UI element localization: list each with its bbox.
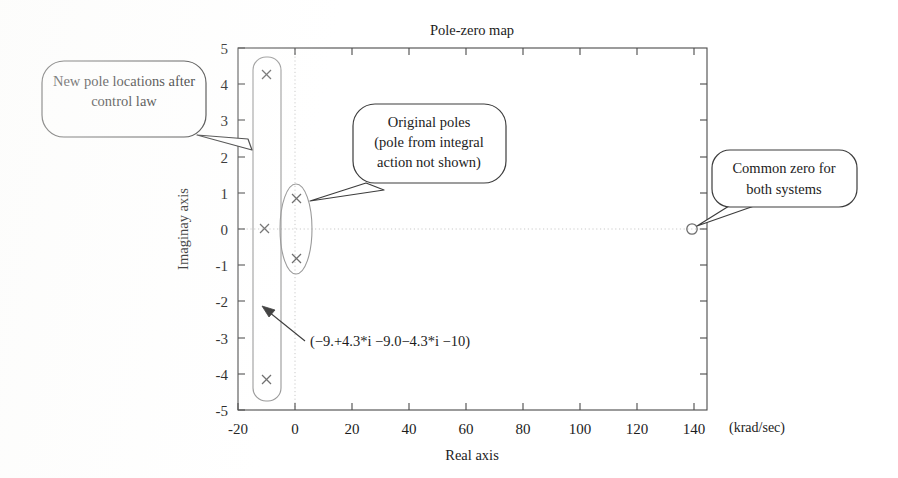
y-tick-label: 0 <box>221 222 229 238</box>
x-axis-label: Real axis <box>445 447 499 463</box>
new-pole-marker-real <box>260 224 269 233</box>
x-tick-label: 100 <box>569 421 592 437</box>
callout-original-poles[interactable]: Original poles (pole from integral actio… <box>310 104 506 201</box>
y-tick-label: -1 <box>216 258 229 274</box>
y-tick-label: -2 <box>216 294 229 310</box>
callout-tail-original-poles <box>310 183 384 201</box>
pole-zero-map-figure: 5 4 3 2 1 0 -1 -2 -3 -4 -5 -20 0 20 40 6… <box>0 0 898 478</box>
original-pole-marker-lower <box>292 254 301 263</box>
y-tick-label: 2 <box>221 150 229 166</box>
callout-common-zero-line2: both systems <box>746 181 822 197</box>
callout-original-poles-line3: action not shown) <box>377 154 481 171</box>
callout-new-poles-line1: New pole locations after <box>53 73 195 89</box>
x-tick-label: -20 <box>228 421 248 437</box>
y-axis-label: Imaginay axis <box>175 188 191 270</box>
x-axis-ticks <box>238 48 694 410</box>
original-pole-marker-upper <box>292 194 301 203</box>
y-tick-label: -5 <box>216 403 229 419</box>
new-pole-values-arrow <box>262 306 305 341</box>
y-tick-label: 5 <box>221 41 229 57</box>
chart-title: Pole-zero map <box>430 22 514 38</box>
y-tick-label: -4 <box>216 367 229 383</box>
x-tick-label: 120 <box>626 421 649 437</box>
callout-original-poles-line1: Original poles <box>388 114 471 130</box>
callout-common-zero[interactable]: Common zero for both systems <box>697 150 857 226</box>
callout-common-zero-line1: Common zero for <box>732 160 835 176</box>
x-tick-label: 40 <box>402 421 417 437</box>
x-tick-label: 60 <box>459 421 474 437</box>
new-poles-group-outline <box>253 57 281 401</box>
x-tick-label: 140 <box>683 421 706 437</box>
x-tick-labels: -20 0 20 40 60 80 100 120 140 <box>228 421 705 437</box>
callout-new-poles[interactable]: New pole locations after control law <box>42 61 252 150</box>
axis-unit-note: (krad/sec) <box>729 420 785 436</box>
x-tick-label: 20 <box>345 421 360 437</box>
new-pole-values-annotation: (−9.+4.3*i −9.0−4.3*i −10) <box>310 333 470 350</box>
x-tick-label: 0 <box>291 421 299 437</box>
y-tick-label: 3 <box>221 113 229 129</box>
new-pole-marker-lower <box>262 375 271 384</box>
y-tick-label: -3 <box>216 331 229 347</box>
x-tick-label: 80 <box>516 421 531 437</box>
callout-box-common-zero <box>712 150 857 207</box>
new-pole-marker-upper <box>262 70 271 79</box>
callout-tail-new-poles <box>197 135 252 150</box>
callout-new-poles-line2: control law <box>91 93 157 109</box>
y-tick-label: 4 <box>221 77 229 93</box>
y-tick-label: 1 <box>221 186 229 202</box>
y-tick-labels: 5 4 3 2 1 0 -1 -2 -3 -4 -5 <box>216 41 229 419</box>
callout-original-poles-line2: (pole from integral <box>374 134 484 151</box>
